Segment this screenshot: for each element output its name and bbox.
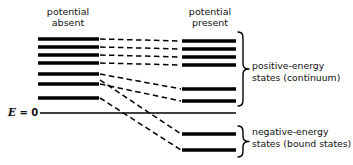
connector-line-2 <box>100 47 181 49</box>
positive-energy-label-line1: positive-energy <box>252 60 340 72</box>
connector-group <box>100 39 181 150</box>
right-level-group <box>182 41 236 150</box>
energy-level-diagram: potential absent potential present E = 0… <box>0 0 353 165</box>
connector-line-7 <box>100 80 181 134</box>
negative-energy-label-line1: negative-energy <box>252 126 351 138</box>
zero-energy-equals: = <box>16 107 31 118</box>
connector-line-6 <box>100 84 181 101</box>
brace-group <box>238 32 249 157</box>
connector-line-8 <box>100 98 181 150</box>
column-title-right: potential present <box>178 6 242 28</box>
column-title-left: potential absent <box>36 6 100 28</box>
positive-energy-label-line2: states (continuum) <box>252 72 340 84</box>
column-title-left-line2: absent <box>36 17 100 28</box>
brace-negative-energy <box>238 126 249 157</box>
column-title-left-line1: potential <box>36 6 100 17</box>
negative-energy-label: negative-energy states (bound states) <box>252 126 351 149</box>
negative-energy-label-line2: states (bound states) <box>252 138 351 150</box>
connector-line-1 <box>100 39 181 41</box>
zero-energy-label: E = 0 <box>8 106 38 118</box>
column-title-right-line1: potential <box>178 6 242 17</box>
column-title-right-line2: present <box>178 17 242 28</box>
positive-energy-label: positive-energy states (continuum) <box>252 60 340 83</box>
zero-energy-symbol: E <box>8 106 16 118</box>
left-level-group <box>38 39 99 98</box>
brace-positive-energy <box>238 32 249 106</box>
zero-energy-value: 0 <box>31 107 38 118</box>
connector-line-4 <box>100 63 181 65</box>
connector-line-3 <box>100 55 181 57</box>
